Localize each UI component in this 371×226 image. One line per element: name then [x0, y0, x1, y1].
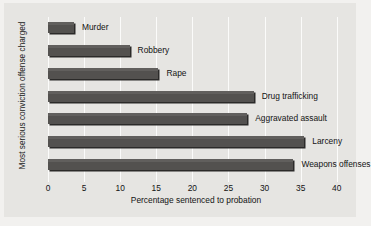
bar [48, 22, 74, 33]
y-axis-label: Most serious conviction offense charged [18, 16, 27, 176]
bar-label: Weapons offenses [301, 159, 370, 170]
plot-area: 0510152025303540 MurderRobberyRapeDrug t… [48, 17, 344, 177]
bar [48, 159, 293, 170]
bar-row: Robbery [48, 45, 344, 56]
tick-label-30: 30 [250, 183, 280, 193]
tick-40 [337, 177, 338, 182]
tick-label-15: 15 [141, 183, 171, 193]
chart-figure: Most serious conviction offense charged … [0, 0, 371, 226]
tick-20 [192, 177, 193, 182]
bar-label: Larceny [312, 136, 342, 147]
bar [48, 45, 130, 56]
bar-row: Murder [48, 22, 344, 33]
tick-label-10: 10 [105, 183, 135, 193]
bar-label: Robbery [138, 45, 170, 56]
bar-row: Weapons offenses [48, 159, 344, 170]
bar-row: Drug trafficking [48, 91, 344, 102]
tick-label-40: 40 [322, 183, 352, 193]
bar-label: Aggravated assault [255, 113, 327, 124]
bar-label: Drug trafficking [262, 91, 318, 102]
bar-row: Rape [48, 68, 344, 79]
x-axis-label: Percentage sentenced to probation [48, 195, 344, 205]
tick-25 [228, 177, 229, 182]
bar-label: Rape [166, 68, 186, 79]
tick-10 [120, 177, 121, 182]
tick-label-5: 5 [69, 183, 99, 193]
bar [48, 136, 304, 147]
tick-label-0: 0 [33, 183, 63, 193]
tick-label-20: 20 [177, 183, 207, 193]
bar [48, 68, 158, 79]
tick-label-25: 25 [213, 183, 243, 193]
tick-0 [48, 177, 49, 182]
bar [48, 91, 254, 102]
tick-15 [156, 177, 157, 182]
tick-35 [301, 177, 302, 182]
tick-5 [84, 177, 85, 182]
bar-row: Larceny [48, 136, 344, 147]
chart-plate: Most serious conviction offense charged … [4, 3, 356, 217]
bar-row: Aggravated assault [48, 113, 344, 124]
bar [48, 113, 247, 124]
tick-label-35: 35 [286, 183, 316, 193]
bar-label: Murder [82, 22, 109, 33]
tick-30 [265, 177, 266, 182]
